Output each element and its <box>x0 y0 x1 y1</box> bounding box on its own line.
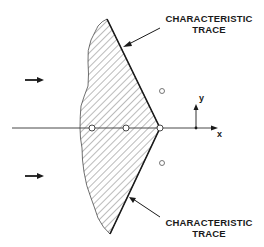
y-axis-label: y <box>199 93 204 103</box>
top-label-line1: CHARACTERISTIC <box>160 13 258 24</box>
axis-point-3 <box>157 125 163 131</box>
top-characteristic-trace-label: CHARACTERISTIC TRACE <box>160 13 258 35</box>
off-axis-point-lower <box>160 161 165 166</box>
top-label-line2: TRACE <box>160 24 258 35</box>
bottom-label-line1: CHARACTERISTIC <box>160 217 258 228</box>
axis-point-2 <box>123 125 129 131</box>
x-axis-label: x <box>217 129 222 139</box>
lower-flow-arrow-icon <box>25 173 44 179</box>
top-label-leader <box>127 28 160 45</box>
upper-flow-arrow-icon <box>25 77 44 83</box>
off-axis-point-upper <box>160 89 165 94</box>
y-axis-arrowhead <box>194 104 199 110</box>
origin-dot <box>195 127 198 130</box>
bottom-characteristic-trace-label: CHARACTERISTIC TRACE <box>160 217 258 239</box>
axis-point-1 <box>89 125 95 131</box>
characteristic-trace-diagram <box>0 0 264 247</box>
top-label-leader-arrowhead <box>123 41 132 47</box>
bottom-label-line2: TRACE <box>160 228 258 239</box>
bottom-label-leader <box>133 199 160 217</box>
